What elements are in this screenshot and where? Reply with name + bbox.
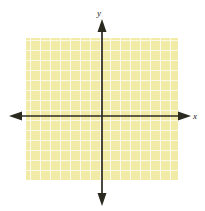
- graph-canvas: y x: [0, 0, 205, 211]
- x-axis-label: x: [192, 111, 197, 121]
- y-axis-label: y: [96, 8, 101, 18]
- coordinate-plane-figure: y x: [0, 0, 205, 211]
